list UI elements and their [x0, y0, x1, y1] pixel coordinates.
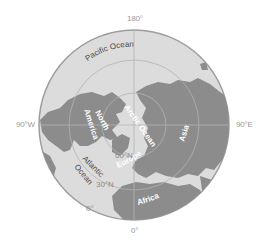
latitude-0-label: 0°	[86, 204, 94, 213]
longitude-90w-label: 90°W	[16, 120, 35, 129]
polar-map-svg: Pacific Ocean North America Arctic Ocean…	[0, 0, 268, 249]
africa-landmass	[112, 182, 204, 226]
polar-map: Pacific Ocean North America Arctic Ocean…	[0, 0, 268, 249]
longitude-90e-label: 90°E	[236, 120, 253, 129]
latitude-30n-label: 30°N	[96, 180, 114, 189]
latitude-60n-label: 60°N	[115, 151, 133, 160]
longitude-180-label: 180°	[127, 14, 143, 23]
longitude-0-label: 0°	[131, 226, 138, 235]
